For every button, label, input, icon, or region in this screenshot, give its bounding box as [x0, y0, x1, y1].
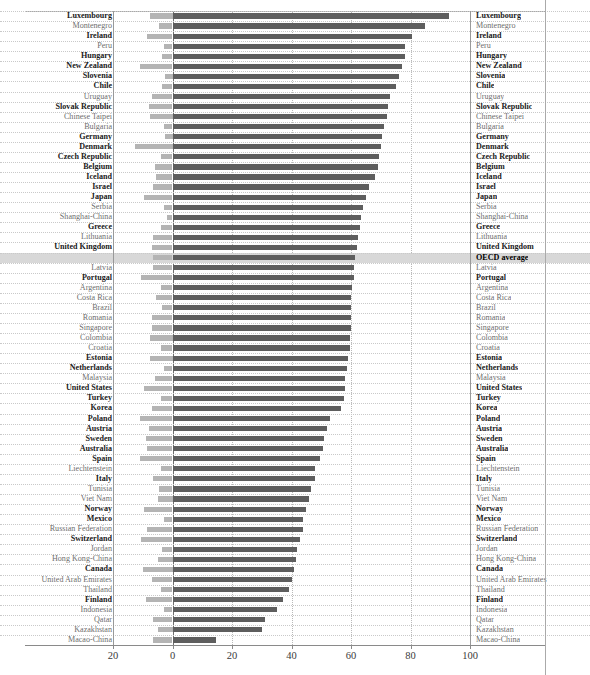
category-label-right: Israel — [473, 182, 496, 192]
category-label-right: Czech Republic — [473, 152, 530, 162]
bar-positive — [173, 617, 265, 622]
plot-right-border — [470, 11, 471, 645]
chart-row — [113, 293, 470, 303]
tick-mark — [470, 645, 471, 649]
bar-negative — [164, 607, 173, 612]
bar-negative — [162, 305, 172, 310]
bar-positive — [173, 406, 341, 411]
chart-row — [113, 595, 470, 605]
bar-positive — [173, 547, 298, 552]
bar-positive — [173, 144, 381, 149]
bar-negative — [150, 335, 172, 340]
chart-row — [113, 424, 470, 434]
chart-row — [113, 383, 470, 393]
chart-row — [113, 474, 470, 484]
bar-negative — [161, 345, 173, 350]
category-label-right: Argentina — [473, 283, 508, 293]
chart-row — [113, 162, 470, 172]
bar-negative — [152, 245, 173, 250]
category-label-right: Thailand — [473, 585, 505, 595]
bar-positive — [173, 275, 354, 280]
category-label-right: Macao-China — [473, 635, 520, 645]
page-right-rule — [545, 0, 546, 675]
bar-negative — [156, 295, 172, 300]
category-label-right: Norway — [473, 504, 503, 514]
category-label-right: Portugal — [473, 273, 506, 283]
category-label-right: Germany — [473, 132, 509, 142]
bar-positive — [173, 627, 262, 632]
bar-negative — [161, 225, 173, 230]
chart-row — [113, 51, 470, 61]
bar-negative — [152, 577, 173, 582]
category-label-right: Ireland — [473, 31, 502, 41]
chart-row — [113, 273, 470, 283]
bar-negative — [158, 627, 173, 632]
bar-positive — [173, 64, 402, 69]
bar-negative — [146, 436, 173, 441]
chart-row — [113, 71, 470, 81]
category-label-right: Hong Kong-China — [473, 554, 536, 564]
chart-row — [113, 263, 470, 273]
chart-row — [113, 313, 470, 323]
bar-positive — [173, 486, 311, 491]
category-label-right: Montenegro — [473, 21, 516, 31]
bar-negative — [153, 255, 172, 260]
bar-negative — [155, 376, 173, 381]
bar-positive — [173, 366, 347, 371]
bar-positive — [173, 305, 352, 310]
category-label-right: Costa Rica — [473, 293, 511, 303]
tick-mark — [411, 645, 412, 649]
bar-positive — [173, 416, 331, 421]
tick-label: 0 — [170, 650, 175, 661]
bar-negative — [144, 195, 172, 200]
category-label-right: Chile — [473, 81, 494, 91]
chart-row — [113, 81, 470, 91]
bar-positive — [173, 285, 353, 290]
category-label-right: Spain — [473, 454, 496, 464]
chart-row — [113, 232, 470, 242]
bar-negative — [144, 507, 172, 512]
tick-label: 60 — [346, 650, 357, 661]
category-label-right: OECD average — [473, 253, 528, 263]
category-label-right: Iceland — [473, 172, 502, 182]
bar-negative — [159, 23, 172, 28]
chart-row — [113, 363, 470, 373]
bar-negative — [164, 44, 173, 49]
bar-positive — [173, 124, 384, 129]
chart-row — [113, 323, 470, 333]
bar-positive — [173, 436, 325, 441]
bar-negative — [161, 466, 173, 471]
bar-positive — [173, 84, 396, 89]
bar-positive — [173, 587, 289, 592]
category-label-right: Indonesia — [473, 605, 507, 615]
chart-row — [113, 202, 470, 212]
chart-row — [113, 11, 470, 21]
bar-negative — [164, 366, 173, 371]
bar-negative — [155, 164, 173, 169]
bar-positive — [173, 386, 346, 391]
bar-negative — [147, 34, 172, 39]
category-label-right: Serbia — [473, 202, 497, 212]
category-label-right: Slovenia — [473, 71, 505, 81]
bar-negative — [158, 557, 173, 562]
chart-row — [113, 444, 470, 454]
chart-row — [113, 575, 470, 585]
bar-positive — [173, 557, 296, 562]
chart-row — [113, 212, 470, 222]
category-label-right: Kazakhstan — [473, 625, 514, 635]
bar-negative — [153, 265, 172, 270]
category-label-right: Luxembourg — [473, 11, 521, 21]
chart-row — [113, 283, 470, 293]
bar-negative — [161, 396, 173, 401]
bar-negative — [146, 597, 173, 602]
tick-mark — [173, 645, 174, 649]
bar-negative — [161, 154, 173, 159]
category-label-right: Singapore — [473, 323, 509, 333]
right-category-labels: LuxembourgMontenegroIrelandPeruHungaryNe… — [473, 11, 589, 645]
chart-row — [113, 21, 470, 31]
bar-positive — [173, 23, 426, 28]
chart-row — [113, 333, 470, 343]
bar-positive — [173, 205, 363, 210]
tick-label: 100 — [462, 650, 478, 661]
chart-row — [113, 494, 470, 504]
